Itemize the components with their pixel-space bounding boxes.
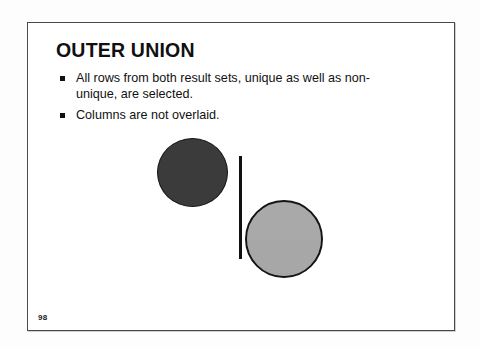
bullet-text: Columns are not overlaid.: [76, 108, 220, 122]
slide-frame: OUTER UNION All rows from both result se…: [27, 22, 455, 331]
slide-title: OUTER UNION: [56, 39, 195, 62]
square-bullet-icon: [60, 113, 65, 118]
outer-union-diagram: [28, 23, 456, 332]
bullet-list: All rows from both result sets, unique a…: [58, 71, 408, 130]
square-bullet-icon: [60, 76, 65, 81]
page-number: 98: [38, 313, 48, 322]
bullet-item: Columns are not overlaid.: [58, 108, 408, 124]
right-result-set-circle: [245, 200, 323, 278]
bullet-text: All rows from both result sets, unique a…: [76, 71, 370, 101]
scanned-page-background: OUTER UNION All rows from both result se…: [0, 0, 480, 348]
left-result-set-circle: [157, 138, 228, 207]
divider-bar: [239, 156, 242, 259]
circle-shading-band: [247, 240, 321, 276]
bullet-item: All rows from both result sets, unique a…: [58, 71, 408, 102]
